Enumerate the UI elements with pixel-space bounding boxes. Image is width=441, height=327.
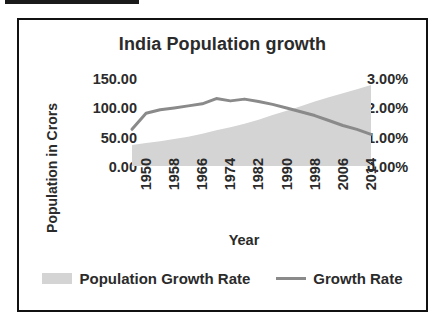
y-axis-right-ticks: 3.00%2.00%1.00%0.00% (367, 72, 441, 166)
y-left-tick-0: 150.00 (93, 72, 137, 87)
plot-area (132, 78, 371, 166)
y-left-tick-1: 100.00 (93, 101, 137, 116)
chart-title: India Population growth (19, 34, 426, 55)
legend-item-growth-rate: Growth Rate (276, 270, 402, 287)
x-tick-1990: 1990 (279, 158, 295, 218)
x-tick-1982: 1982 (250, 158, 266, 218)
x-tick-1998: 1998 (307, 158, 323, 218)
x-axis-title: Year (129, 232, 359, 248)
chart-legend: Population Growth Rate Growth Rate (19, 270, 426, 287)
x-tick-2014: 2014 (363, 158, 379, 218)
page-header-rule (5, 0, 139, 4)
legend-item-label: Population Growth Rate (79, 270, 250, 287)
x-tick-2006: 2006 (335, 158, 351, 218)
chart-plot-svg (132, 78, 371, 166)
x-tick-1966: 1966 (194, 158, 210, 218)
x-tick-1958: 1958 (166, 158, 182, 218)
legend-item-population-growth-rate: Population Growth Rate (42, 270, 250, 287)
legend-item-label: Growth Rate (313, 270, 402, 287)
area-fill-population (132, 85, 371, 166)
y-right-tick-0: 3.00% (367, 72, 408, 87)
y-axis-left-ticks: 150.00100.0050.000.00 (57, 72, 137, 166)
y-axis-left-title: Population in Crors (44, 88, 60, 248)
x-axis-ticks: 195019581966197419821990199820062014 (132, 170, 372, 230)
series-population-growth-rate (132, 85, 371, 166)
x-tick-1974: 1974 (222, 158, 238, 218)
y-right-tick-1: 2.00% (367, 101, 408, 116)
chart-container: India Population growth 150.00100.0050.0… (17, 18, 428, 312)
y-right-tick-2: 1.00% (367, 131, 408, 146)
x-tick-1950: 1950 (138, 158, 154, 218)
line-swatch-icon (276, 277, 306, 280)
area-swatch-icon (42, 273, 72, 284)
